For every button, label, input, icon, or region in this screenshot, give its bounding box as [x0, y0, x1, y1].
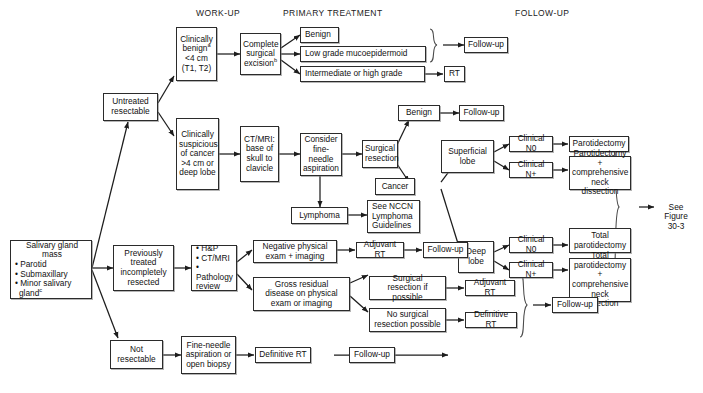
follow-up-5-label: Follow-up	[352, 350, 392, 360]
node-negative-physical-exam[interactable]: Negative physical exam + imaging	[253, 240, 337, 263]
clinical-n-plus-superficial-label: Clinical N+	[512, 160, 550, 179]
previously-treated-label: Previously treated incompletely resected	[116, 249, 171, 287]
lymphoma-label: Lymphoma	[294, 211, 345, 221]
total-parotidectomy-label: Total parotidectomy	[572, 231, 628, 250]
footnote-marker-b: b	[274, 57, 277, 63]
node-clinical-n-plus-superficial[interactable]: Clinical N+	[509, 162, 553, 178]
node-lymphoma[interactable]: Lymphoma	[291, 207, 348, 224]
node-follow-up-2[interactable]: Follow-up	[459, 105, 504, 121]
consider-fna-label: Consider fine-needle aspiration	[303, 135, 339, 173]
node-adjuvant-rt-top[interactable]: Adjuvant RT	[356, 242, 404, 258]
follow-up-2-label: Follow-up	[462, 108, 501, 118]
see-figure-30-3-label: See Figure 30-3	[664, 202, 688, 231]
node-fna-or-open-biopsy[interactable]: Fine-needle aspiration or open biopsy	[181, 336, 236, 374]
low-grade-mucoepidermoid-label: Low grade mucoepidermoid	[305, 49, 423, 59]
clinically-benign-word: benign	[182, 43, 207, 53]
node-hp-ctmri-pathology[interactable]: • H&P • CT/MRI • Pathology review	[191, 245, 237, 291]
adjuvant-rt-top-label: Adjuvant RT	[359, 240, 401, 259]
node-rt[interactable]: RT	[444, 66, 465, 82]
node-superficial-lobe[interactable]: Superficial lobe	[441, 140, 494, 173]
gross-residual-disease-label: Gross residual disease on physical exam …	[256, 280, 347, 309]
node-clinical-n0-superficial[interactable]: Clinical N0	[509, 136, 553, 152]
node-clinical-n-plus-deep[interactable]: Clinical N+	[509, 262, 553, 278]
node-follow-up-3[interactable]: Follow-up	[423, 242, 468, 258]
node-definitive-rt-mid[interactable]: Definitive RT	[465, 312, 517, 328]
fna-or-open-biopsy-label: Fine-needle aspiration or open biopsy	[184, 341, 233, 370]
node-cancer[interactable]: Cancer	[375, 178, 415, 195]
clinical-n0-deep-label: Clinical N0	[512, 235, 550, 254]
node-definitive-rt-bottom[interactable]: Definitive RT	[255, 347, 311, 363]
follow-up-4-label: Follow-up	[555, 300, 595, 310]
node-no-surgical-resection-possible[interactable]: No surgical resection possible	[369, 308, 446, 332]
node-low-grade-mucoepidermoid[interactable]: Low grade mucoepidermoid	[300, 46, 426, 62]
benign-top-label: Benign	[305, 30, 336, 40]
surgical-resection-label: Surgical resection	[365, 144, 395, 163]
complete-surgical-excision-label: Complete surgical excisionb	[243, 40, 278, 69]
node-clinically-benign[interactable]: Clinically benigna <4 cm (T1, T2)	[176, 27, 217, 81]
node-intermediate-or-high-grade[interactable]: Intermediate or high grade	[300, 66, 425, 82]
node-benign-top[interactable]: Benign	[300, 27, 339, 43]
footnote-marker-c: c	[39, 287, 42, 293]
node-not-resectable[interactable]: Not resectable	[110, 340, 163, 369]
clinically-suspicious-label: Clinically suspicious of cancer >4 cm or…	[179, 130, 216, 178]
parotidectomy-neck-dissection-label: Parotidectomy + comprehensive neck disse…	[572, 149, 628, 197]
clinical-n-plus-deep-label: Clinical N+	[512, 260, 550, 279]
cancer-label: Cancer	[378, 182, 412, 192]
node-clinical-n0-deep[interactable]: Clinical N0	[509, 237, 553, 253]
node-total-parotidectomy-neck-dissection[interactable]: Total parotidectomy + comprehensive neck…	[569, 258, 631, 302]
follow-up-1-label: Follow-up	[467, 40, 505, 50]
intermediate-or-high-grade-label: Intermediate or high grade	[305, 69, 422, 79]
rt-label: RT	[447, 69, 462, 79]
untreated-resectable-label: Untreated resectable	[106, 97, 155, 116]
definitive-rt-bottom-label: Definitive RT	[258, 350, 308, 360]
footnote-marker-a: a	[207, 43, 210, 49]
node-follow-up-4[interactable]: Follow-up	[552, 297, 598, 313]
node-untreated-resectable[interactable]: Untreated resectable	[103, 93, 158, 121]
node-surgical-resection-if-possible[interactable]: Surgical resection if possible	[369, 276, 446, 300]
node-see-nccn-lymphoma[interactable]: See NCCN Lymphoma Guidelines	[367, 200, 420, 233]
superficial-lobe-label: Superficial lobe	[444, 147, 491, 166]
negative-physical-exam-label: Negative physical exam + imaging	[256, 242, 334, 261]
node-ct-mri-base-skull[interactable]: CT/MRI: base of skull to clavicle	[240, 126, 279, 182]
node-see-figure-30-3[interactable]: See Figure 30-3	[654, 193, 698, 231]
node-complete-surgical-excision[interactable]: Complete surgical excisionb	[240, 33, 281, 75]
flowchart-canvas: WORK-UP PRIMARY TREATMENT FOLLOW-UP	[0, 0, 703, 393]
ct-mri-base-skull-label: CT/MRI: base of skull to clavicle	[243, 135, 276, 173]
node-parotidectomy-neck-dissection[interactable]: Parotidectomy + comprehensive neck disse…	[569, 156, 631, 190]
node-adjuvant-rt-mid[interactable]: Adjuvant RT	[465, 280, 515, 296]
column-header-work-up: WORK-UP	[196, 8, 240, 18]
surgical-resection-if-possible-label: Surgical resection if possible	[372, 274, 443, 303]
definitive-rt-mid-label: Definitive RT	[468, 310, 514, 329]
node-previously-treated[interactable]: Previously treated incompletely resected	[113, 245, 174, 291]
hp-ctmri-pathology-label: • H&P • CT/MRI • Pathology review	[196, 244, 234, 292]
see-nccn-lymphoma-label: See NCCN Lymphoma Guidelines	[372, 202, 417, 231]
adjuvant-rt-mid-label: Adjuvant RT	[468, 278, 512, 297]
node-follow-up-1[interactable]: Follow-up	[464, 37, 508, 53]
node-clinically-suspicious[interactable]: Clinically suspicious of cancer >4 cm or…	[176, 118, 219, 190]
node-surgical-resection[interactable]: Surgical resection	[362, 140, 398, 168]
mass-item-gland: glandc	[15, 289, 89, 299]
node-gross-residual-disease[interactable]: Gross residual disease on physical exam …	[253, 277, 350, 311]
node-consider-fna[interactable]: Consider fine-needle aspiration	[300, 133, 342, 176]
follow-up-3-label: Follow-up	[426, 245, 465, 255]
node-salivary-gland-mass[interactable]: Salivary gland mass • Parotid • Submaxil…	[10, 240, 92, 299]
clinical-n0-superficial-label: Clinical N0	[512, 134, 550, 153]
not-resectable-label: Not resectable	[113, 345, 160, 364]
node-follow-up-5[interactable]: Follow-up	[349, 347, 395, 363]
column-header-follow-up: FOLLOW-UP	[515, 8, 569, 18]
benign-mid-label: Benign	[401, 108, 437, 118]
no-surgical-resection-possible-label: No surgical resection possible	[372, 310, 443, 329]
node-benign-mid[interactable]: Benign	[398, 105, 440, 121]
clinically-benign-label: Clinically benigna <4 cm (T1, T2)	[179, 35, 214, 73]
column-header-primary-treatment: PRIMARY TREATMENT	[283, 8, 383, 18]
